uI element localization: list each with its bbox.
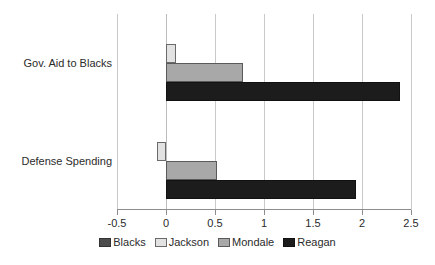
legend-item-jackson[interactable]: Jackson bbox=[155, 236, 209, 248]
legend-label-mondale: Mondale bbox=[232, 236, 274, 248]
bar-gov-aid-to-blacks-reagan bbox=[166, 82, 400, 101]
legend-item-blacks[interactable]: Blacks bbox=[99, 236, 145, 248]
x-tick-mark bbox=[166, 210, 167, 215]
legend-label-reagan: Reagan bbox=[297, 236, 336, 248]
legend-swatch-reagan-icon bbox=[283, 238, 295, 247]
x-tick-mark bbox=[264, 210, 265, 215]
bar-defense-spending-reagan bbox=[166, 180, 356, 199]
legend-label-jackson: Jackson bbox=[169, 236, 209, 248]
x-tick-mark bbox=[313, 210, 314, 215]
x-tick-label-0: -0.5 bbox=[108, 217, 127, 229]
legend-label-blacks: Blacks bbox=[113, 236, 145, 248]
x-tick-label-6: 2.5 bbox=[403, 217, 418, 229]
gridline-2p5 bbox=[411, 14, 412, 210]
legend-swatch-blacks-icon bbox=[99, 238, 111, 247]
gridline-2 bbox=[362, 14, 363, 210]
bar-gov-aid-to-blacks-jackson bbox=[166, 44, 176, 63]
legend-item-reagan[interactable]: Reagan bbox=[283, 236, 336, 248]
bar-defense-spending-jackson bbox=[157, 142, 166, 161]
gridline-neg0p5 bbox=[117, 14, 118, 210]
x-tick-mark bbox=[117, 210, 118, 215]
chart-legend: BlacksJacksonMondaleReagan bbox=[0, 236, 435, 248]
plot-area bbox=[117, 14, 411, 210]
legend-swatch-jackson-icon bbox=[155, 238, 167, 247]
x-tick-label-2: 0.5 bbox=[207, 217, 222, 229]
legend-item-mondale[interactable]: Mondale bbox=[218, 236, 274, 248]
legend-swatch-mondale-icon bbox=[218, 238, 230, 247]
x-tick-mark bbox=[215, 210, 216, 215]
x-tick-label-3: 1 bbox=[261, 217, 267, 229]
bar-gov-aid-to-blacks-mondale bbox=[166, 63, 243, 82]
x-tick-label-5: 2 bbox=[359, 217, 365, 229]
x-tick-label-4: 1.5 bbox=[305, 217, 320, 229]
category-label-1: Defense Spending bbox=[8, 155, 112, 167]
bar-defense-spending-mondale bbox=[166, 161, 217, 180]
x-tick-mark bbox=[362, 210, 363, 215]
chart-root: -0.500.511.522.5 Gov. Aid to BlacksDefen… bbox=[0, 0, 435, 265]
x-tick-label-1: 0 bbox=[163, 217, 169, 229]
category-label-0: Gov. Aid to Blacks bbox=[8, 57, 112, 69]
x-tick-mark bbox=[411, 210, 412, 215]
